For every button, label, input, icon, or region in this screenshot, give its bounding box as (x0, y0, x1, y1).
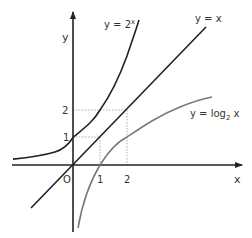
function-graph: y x O 1 2 1 2 y = 2x y = x y = log2 x (0, 0, 252, 238)
curve-exponential (13, 20, 139, 159)
y-tick-2: 2 (62, 105, 68, 116)
x-tick-1: 1 (97, 174, 103, 185)
y-tick-1: 1 (63, 132, 69, 143)
label-exponential: y = 2x (104, 18, 135, 30)
x-tick-2: 2 (124, 174, 130, 185)
label-identity: y = x (195, 13, 222, 24)
x-axis-label: x (234, 173, 241, 186)
curve-identity (31, 27, 206, 208)
label-logarithm: y = log2 x (190, 108, 240, 122)
y-axis-label: y (62, 31, 69, 44)
origin-label: O (63, 174, 71, 185)
